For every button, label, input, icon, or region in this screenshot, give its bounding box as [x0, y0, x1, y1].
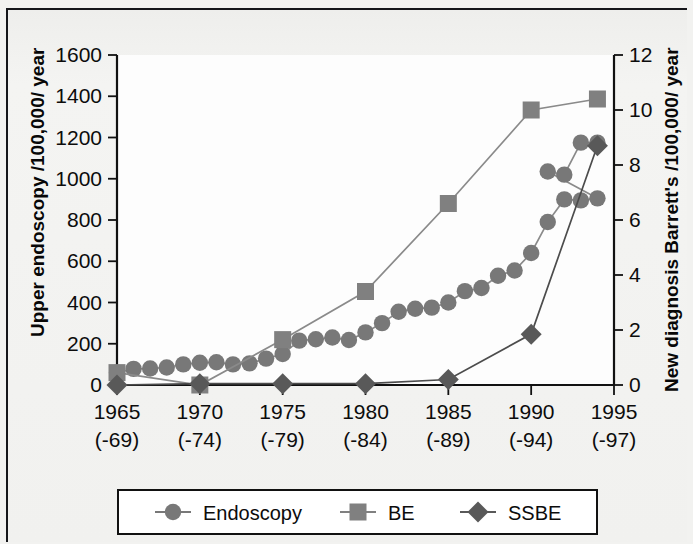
data-point-endoscopy: [556, 166, 572, 182]
data-point-be: [357, 283, 374, 300]
x-tick-sublabel: (-97): [592, 428, 636, 451]
x-tick-label: 1980: [342, 400, 389, 423]
x-tick-sublabel: (-74): [178, 428, 222, 451]
chart-legend: EndoscopyBESSBE: [118, 490, 597, 534]
data-point-endoscopy: [556, 191, 572, 207]
secondary-y-axis-title: New diagnosis Barrett's /100,000/ year: [661, 47, 682, 392]
data-point-endoscopy: [523, 245, 539, 261]
right-axis-ticks: 024681012: [614, 43, 652, 396]
data-point-endoscopy: [540, 214, 556, 230]
right-tick-label: 4: [629, 263, 641, 286]
right-tick-label: 6: [629, 208, 641, 231]
x-tick-sublabel: (-79): [260, 428, 304, 451]
data-point-endoscopy: [357, 324, 373, 340]
left-tick-label: 800: [67, 208, 102, 231]
legend-label-be: BE: [388, 502, 415, 524]
data-point-be: [274, 331, 291, 348]
data-point-endoscopy: [374, 315, 390, 331]
data-point-endoscopy: [175, 356, 191, 372]
legend-label-ssbe: SSBE: [508, 502, 561, 524]
left-tick-label: 1000: [55, 167, 102, 190]
x-tick-sublabel: (-84): [343, 428, 387, 451]
data-point-be: [440, 195, 457, 212]
data-point-endoscopy: [258, 350, 274, 366]
left-tick-label: 400: [67, 291, 102, 314]
data-point-endoscopy: [142, 360, 158, 376]
right-tick-label: 0: [629, 373, 641, 396]
data-point-endoscopy: [573, 134, 589, 150]
data-point-endoscopy: [208, 354, 224, 370]
data-point-endoscopy: [308, 331, 324, 347]
x-tick-sublabel: (-89): [426, 428, 470, 451]
data-point-be: [523, 102, 540, 119]
data-point-endoscopy: [457, 283, 473, 299]
data-point-endoscopy: [506, 262, 522, 278]
data-point-endoscopy: [407, 300, 423, 316]
right-tick-label: 2: [629, 318, 641, 341]
left-axis-ticks: 02004006008001000120014001600: [55, 43, 117, 396]
data-point-endoscopy: [490, 267, 506, 283]
left-tick-label: 200: [67, 332, 102, 355]
left-tick-label: 0: [90, 373, 102, 396]
right-tick-label: 8: [629, 153, 641, 176]
chart-figure: 02004006008001000120014001600 024681012 …: [8, 10, 687, 542]
left-tick-label: 1600: [55, 43, 102, 66]
x-tick-label: 1965: [94, 400, 141, 423]
x-axis-ticks: 1965(-69)1970(-74)1975(-79)1980(-84)1985…: [94, 385, 638, 451]
data-point-endoscopy: [291, 332, 307, 348]
left-tick-label: 600: [67, 249, 102, 272]
x-tick-label: 1990: [508, 400, 555, 423]
line-chart: 02004006008001000120014001600 024681012 …: [8, 10, 689, 544]
right-tick-label: 12: [629, 43, 652, 66]
x-tick-label: 1985: [425, 400, 472, 423]
x-tick-label: 1975: [259, 400, 306, 423]
data-point-endoscopy: [473, 280, 489, 296]
x-tick-label: 1970: [176, 400, 223, 423]
data-point-endoscopy: [341, 332, 357, 348]
data-point-endoscopy: [589, 190, 605, 206]
figure-frame: 02004006008001000120014001600 024681012 …: [6, 8, 687, 542]
left-tick-label: 1200: [55, 126, 102, 149]
data-point-endoscopy: [440, 294, 456, 310]
left-tick-label: 1400: [55, 84, 102, 107]
screenshot-root: 02004006008001000120014001600 024681012 …: [0, 0, 693, 544]
data-point-endoscopy: [540, 163, 556, 179]
x-tick-sublabel: (-94): [509, 428, 553, 451]
y-axis-title: Upper endoscopy /100,000/ year: [27, 47, 48, 337]
legend-marker-endoscopy: [165, 504, 181, 520]
legend-marker-be: [350, 504, 367, 521]
data-point-be: [589, 91, 606, 108]
legend-label-endoscopy: Endoscopy: [203, 502, 302, 524]
data-point-endoscopy: [274, 346, 290, 362]
right-tick-label: 10: [629, 98, 652, 121]
x-tick-sublabel: (-69): [95, 428, 139, 451]
data-point-endoscopy: [390, 304, 406, 320]
data-point-endoscopy: [424, 299, 440, 315]
data-point-endoscopy: [192, 355, 208, 371]
data-point-endoscopy: [159, 359, 175, 375]
data-point-endoscopy: [324, 329, 340, 345]
x-tick-label: 1995: [591, 400, 638, 423]
